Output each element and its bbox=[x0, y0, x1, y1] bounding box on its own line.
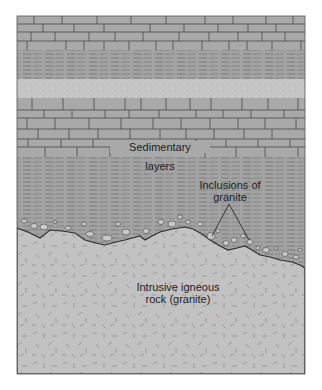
label-inclusions-line2: granite bbox=[190, 191, 270, 203]
sandstone-layer bbox=[17, 79, 305, 98]
label-inclusions-line1: Inclusions of bbox=[190, 179, 270, 191]
label-inclusions: Inclusions of granite bbox=[190, 179, 270, 203]
label-granite: Intrusive igneous rock (granite) bbox=[118, 281, 238, 305]
label-sedimentary: Sedimentary bbox=[110, 141, 210, 153]
label-sedimentary-line2: layers bbox=[145, 160, 174, 172]
geologic-cross-section: Sedimentary layers Inclusions of granite… bbox=[0, 0, 322, 390]
label-granite-line1: Intrusive igneous bbox=[118, 281, 238, 293]
cross-section-figure bbox=[0, 0, 322, 390]
label-layers: layers bbox=[135, 160, 185, 172]
shale-layer-upper bbox=[17, 50, 305, 79]
label-sedimentary-line1: Sedimentary bbox=[129, 141, 191, 153]
label-granite-line2: rock (granite) bbox=[118, 293, 238, 305]
limestone-layer-upper bbox=[17, 16, 305, 50]
